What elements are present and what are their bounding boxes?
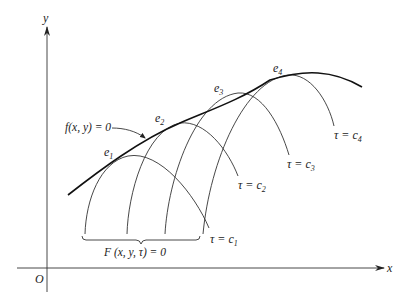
x-axis-label: x bbox=[387, 262, 392, 274]
origin-label: O bbox=[35, 273, 44, 285]
tangency-point-e2: e2 bbox=[155, 112, 164, 127]
curve-tau-c4 bbox=[203, 75, 334, 234]
tangency-point-e4: e4 bbox=[273, 62, 282, 77]
diagram-canvas bbox=[0, 0, 398, 303]
curve-label-c2: τ = c2 bbox=[238, 179, 266, 194]
curve-tau-c3 bbox=[165, 93, 289, 234]
family-brace bbox=[82, 236, 200, 244]
curve-label-c3: τ = c3 bbox=[287, 158, 315, 173]
family-label: F (x, y, τ) = 0 bbox=[104, 247, 166, 259]
curve-label-c4: τ = c4 bbox=[334, 129, 362, 144]
curve-tau-c2 bbox=[127, 123, 238, 234]
envelope-diagram: y x O f(x, y) = 0 F (x, y, τ) = 0 e1 e2 … bbox=[0, 0, 398, 303]
curve-label-c1: τ = c1 bbox=[210, 233, 238, 248]
tangency-point-e3: e3 bbox=[214, 82, 223, 97]
envelope-label-arrow bbox=[112, 128, 145, 138]
tangency-point-e1: e1 bbox=[104, 146, 113, 161]
envelope-label: f(x, y) = 0 bbox=[65, 122, 111, 134]
y-axis-label: y bbox=[43, 12, 48, 24]
